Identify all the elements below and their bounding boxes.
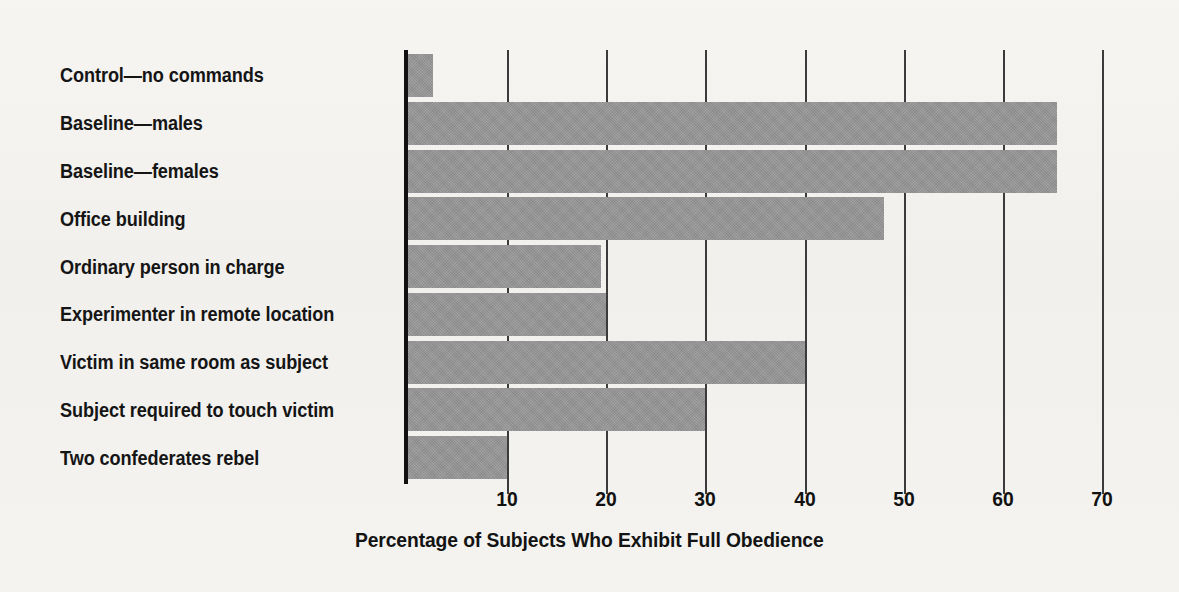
bar — [408, 150, 1057, 193]
x-axis-tick-labels: 10203040506070 — [408, 487, 1102, 517]
tick-label-20: 20 — [596, 487, 617, 511]
chart-page: Control—no commandsBaseline—malesBaselin… — [0, 0, 1179, 592]
bar — [408, 388, 705, 431]
category-label: Baseline—males — [60, 100, 203, 148]
category-label: Control—no commands — [60, 52, 264, 100]
tick-label-30: 30 — [695, 487, 716, 511]
category-label: Victim in same room as subject — [60, 339, 328, 387]
bar-row — [408, 291, 1102, 339]
bar-row — [408, 195, 1102, 243]
bar — [408, 54, 433, 97]
bar-row — [408, 243, 1102, 291]
x-axis-title: Percentage of Subjects Who Exhibit Full … — [0, 528, 1179, 552]
bars-group — [408, 52, 1102, 482]
bar-row — [408, 148, 1102, 196]
y-axis-line — [404, 50, 408, 484]
category-label: Experimenter in remote location — [60, 291, 334, 339]
tick-label-10: 10 — [496, 487, 517, 511]
bar — [408, 436, 507, 479]
bar — [408, 293, 606, 336]
x-axis-title-text: Percentage of Subjects Who Exhibit Full … — [355, 528, 824, 552]
tick-label-70: 70 — [1091, 487, 1112, 511]
category-label: Baseline—females — [60, 148, 219, 196]
tick-label-60: 60 — [992, 487, 1013, 511]
category-label: Two confederates rebel — [60, 434, 259, 482]
category-label: Office building — [60, 195, 186, 243]
bar-row — [408, 386, 1102, 434]
category-labels-group: Control—no commandsBaseline—malesBaselin… — [0, 52, 404, 482]
bar-row — [408, 52, 1102, 100]
bar — [408, 341, 805, 384]
bar — [408, 245, 601, 288]
bar-row — [408, 339, 1102, 387]
gridline-70 — [1102, 50, 1104, 494]
tick-label-50: 50 — [893, 487, 914, 511]
category-label: Subject required to touch victim — [60, 386, 334, 434]
bar — [408, 197, 884, 240]
category-label: Ordinary person in charge — [60, 243, 284, 291]
bar-row — [408, 434, 1102, 482]
bar-row — [408, 100, 1102, 148]
bar — [408, 102, 1057, 145]
tick-label-40: 40 — [794, 487, 815, 511]
